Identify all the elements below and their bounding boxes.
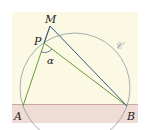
label-a: A (13, 110, 22, 123)
panel-background (12, 12, 138, 104)
lower-band (12, 104, 138, 123)
label-p: P (33, 35, 42, 48)
geometry-diagram: M P α 𝒞 A B (0, 0, 148, 130)
label-b: B (126, 110, 135, 123)
label-m: M (44, 13, 57, 26)
label-alpha: α (47, 55, 54, 66)
